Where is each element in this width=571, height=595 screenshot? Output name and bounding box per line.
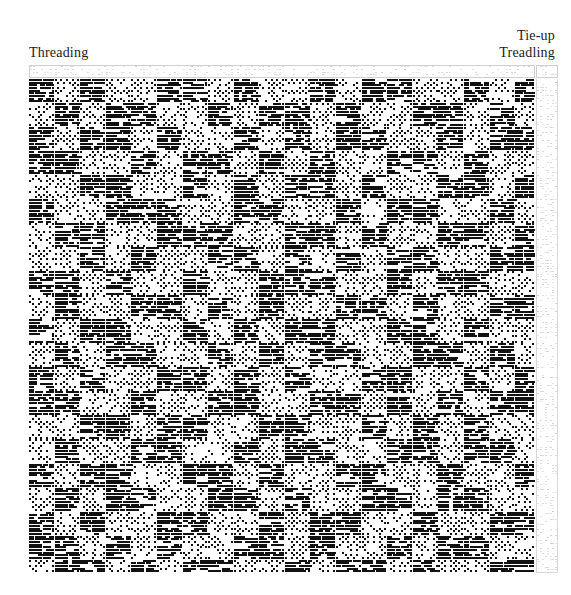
tie-up-label: Tie-up [517, 28, 555, 43]
threading-grid-canvas [30, 66, 534, 77]
treadling-grid-canvas [537, 79, 557, 572]
drawdown-canvas [29, 79, 535, 573]
drawdown-panel[interactable] [29, 79, 535, 573]
treadling-grid-panel[interactable] [536, 79, 558, 573]
treadling-label: Treadling [499, 45, 555, 60]
threading-grid-panel[interactable] [29, 65, 535, 78]
threading-label: Threading [29, 45, 88, 60]
tie-up-grid-canvas [537, 66, 557, 77]
weaving-draft-sheet: Threading Tie-up Treadling [0, 0, 571, 595]
tie-up-grid-panel[interactable] [536, 65, 558, 78]
